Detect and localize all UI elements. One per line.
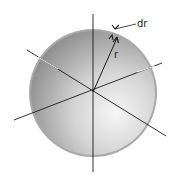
dr-label: dr [137, 18, 148, 29]
spherical-shell-diagram: r dr [0, 0, 181, 179]
diagram-svg: r dr [0, 0, 181, 179]
